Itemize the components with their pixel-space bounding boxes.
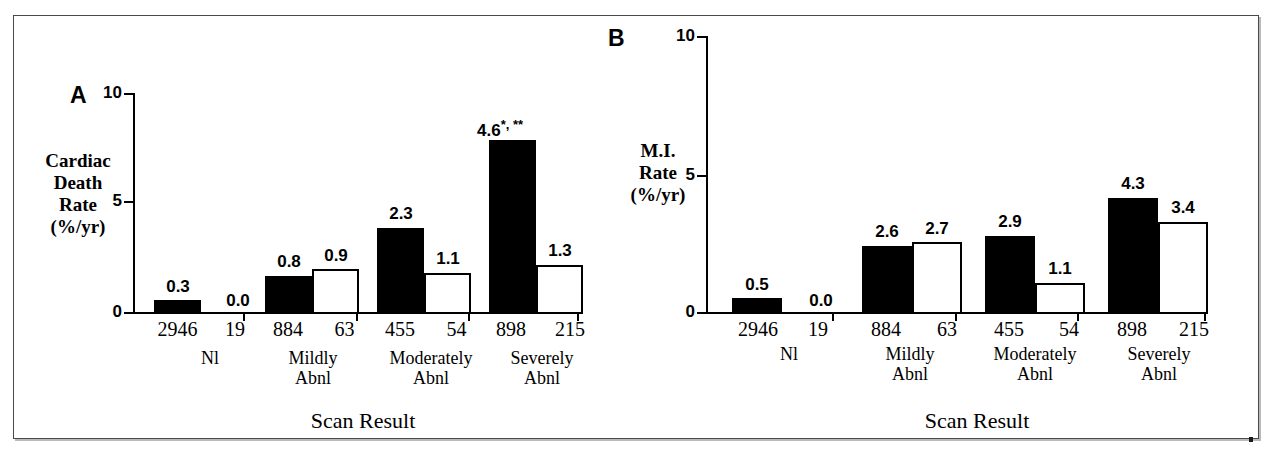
panel-b-count-mild-hollow: 63 [918,318,976,341]
panel-a-count-mild-solid: 884 [255,318,321,341]
panel-a-bar-sev-solid [489,140,536,314]
panel-a-x-axis-title: Scan Result [258,408,468,434]
panel-b-barlabel-sev-hollow: 3.4 [1152,198,1214,218]
panel-a-count-mod-solid: 455 [368,318,432,341]
panel-a-bar-sev-hollow [536,265,583,314]
panel-b-count-mod-solid: 455 [975,318,1043,341]
panel-b-bar-mild-hollow [912,242,962,314]
panel-b-count-nl-hollow: 19 [788,318,848,341]
panel-b-bar-nl-solid [732,298,782,314]
panel-b-group-nl: Nl [734,344,844,364]
panel-b-count-mod-hollow: 54 [1040,318,1098,341]
panel-a-bar-mild-solid [265,276,312,314]
panel-b-bar-sev-hollow [1158,222,1208,314]
panel-b-letter: B [608,25,625,52]
panel-a-bar-mild-hollow [312,269,359,314]
panel-b-barlabel-sev-solid: 4.3 [1102,174,1164,194]
panel-b-ytick-10-label: 10 [657,26,695,46]
panel-a-count-sev-solid: 898 [479,318,543,341]
panel-a-barlabel-nl-solid: 0.3 [148,277,208,297]
scan-speck-artifact [1249,437,1253,442]
panel-a-y-axis [133,93,135,314]
panel-a-group-nl: Nl [155,348,265,368]
panel-b-bar-mod-solid [985,236,1035,314]
panel-a-ytick-10-label: 10 [84,83,122,103]
panel-a-group-mod: Moderately Abnl [369,348,493,388]
panel-a-barlabel-mod-hollow: 1.1 [418,249,478,269]
panel-b-count-sev-hollow: 215 [1160,318,1228,341]
panel-a-barlabel-mild-hollow: 0.9 [306,246,366,266]
panel-a-barlabel-sev-hollow: 1.3 [530,241,590,261]
panel-b-count-sev-solid: 898 [1098,318,1166,341]
panel-b-count-mild-solid: 884 [852,318,920,341]
panel-a-count-mod-hollow: 54 [429,318,484,341]
figure-canvas: A Cardiac Death Rate (%/yr) 10 5 0 0.3 0… [0,0,1275,466]
panel-b: B M.I. Rate (%/yr) 10 5 0 0.5 0.0 2.6 2.… [600,0,1275,466]
panel-b-group-sev: Severely Abnl [1102,344,1216,384]
panel-b-bar-mild-solid [862,246,912,314]
panel-b-bar-sev-solid [1108,198,1158,314]
panel-b-group-mod: Moderately Abnl [973,344,1097,384]
panel-a-ytick-0-mark [124,312,133,314]
panel-b-ytick-0-label: 0 [657,302,695,322]
panel-a-ytick-5-label: 5 [84,191,122,211]
panel-a-ytick-0-label: 0 [84,302,122,322]
panel-b-x-axis-title: Scan Result [872,408,1082,434]
panel-a-group-sev: Severely Abnl [485,348,599,388]
panel-b-barlabel-nl-solid: 0.5 [726,275,788,295]
panel-b-count-nl-solid: 2946 [719,318,797,341]
panel-b-barlabel-mild-hollow: 2.7 [906,219,968,239]
panel-b-ytick-5-label: 5 [657,165,695,185]
panel-b-group-mild: Mildly Abnl [855,344,965,384]
panel-b-ytick-10-mark [697,36,706,38]
panel-a-ytick-10-mark [124,93,133,95]
panel-a-count-nl-solid: 2946 [140,318,215,341]
panel-b-ytick-0-mark [697,312,706,314]
panel-a-significance-marker: *, ** [501,117,523,132]
panel-b-barlabel-nl-hollow: 0.0 [790,291,852,311]
panel-a-bar-nl-solid [154,300,201,314]
panel-a-ytick-5-mark [124,201,133,203]
panel-b-barlabel-mod-solid: 2.9 [979,212,1041,232]
panel-b-ytick-5-mark [697,175,706,177]
panel-a-barlabel-sev-solid: 4.6*, ** [477,117,573,141]
panel-a-barlabel-mod-solid: 2.3 [371,204,431,224]
panel-a-bar-mod-solid [377,228,424,314]
panel-a: A Cardiac Death Rate (%/yr) 10 5 0 0.3 0… [0,0,620,466]
panel-a-count-mild-hollow: 63 [317,318,372,341]
panel-a-bar-mod-hollow [424,273,471,314]
panel-a-group-mild: Mildly Abnl [258,348,368,388]
panel-a-count-sev-hollow: 215 [538,318,602,341]
panel-a-barlabel-nl-hollow: 0.0 [208,291,268,311]
panel-b-bar-mod-hollow [1035,283,1085,314]
panel-b-barlabel-mod-hollow: 1.1 [1029,259,1091,279]
panel-b-y-axis [706,36,708,314]
